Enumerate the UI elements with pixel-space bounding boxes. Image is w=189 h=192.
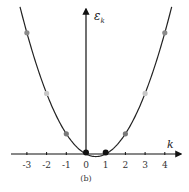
x-axis-label: k: [167, 138, 174, 151]
data-point: [83, 150, 89, 156]
data-point: [44, 91, 49, 96]
x-tick-label: 3: [142, 160, 148, 170]
y-axis-label: εk: [94, 9, 105, 25]
x-tick-label: 0: [83, 160, 89, 170]
data-point: [24, 30, 29, 35]
data-point: [64, 131, 69, 136]
x-axis-ticks: -3-2-101234: [23, 152, 168, 170]
data-point: [103, 150, 109, 156]
data-point: [123, 131, 128, 136]
x-tick-label: -3: [23, 160, 32, 170]
dispersion-plot: -3-2-101234 εk k (b): [0, 0, 189, 192]
figure-caption: (b): [80, 174, 91, 183]
x-tick-label: 4: [162, 160, 168, 170]
dispersion-curve: [20, 7, 172, 157]
x-tick-label: 1: [103, 160, 109, 170]
data-point: [143, 91, 148, 96]
x-tick-label: 2: [123, 160, 129, 170]
x-tick-label: -2: [42, 160, 51, 170]
parabola-curve: [20, 7, 172, 157]
x-tick-label: -1: [62, 160, 71, 170]
data-point: [162, 30, 167, 35]
data-points: [24, 30, 167, 155]
